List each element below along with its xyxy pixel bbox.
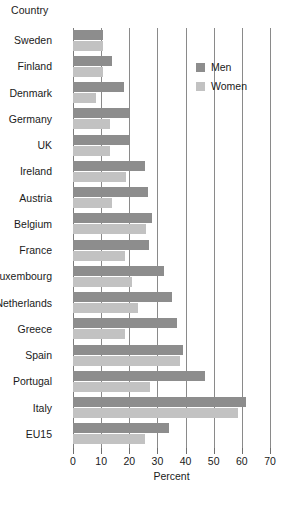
category-label: Netherlands <box>0 297 52 309</box>
bar-men <box>73 371 205 381</box>
bar-women <box>73 67 103 77</box>
x-tick-label: 40 <box>171 455 201 467</box>
bar-chart: Country SwedenFinlandDenmarkGermanyUKIre… <box>0 0 286 511</box>
category-label: Finland <box>0 60 52 72</box>
category-label: Ireland <box>0 165 52 177</box>
legend-label: Women <box>211 80 247 92</box>
bar-men <box>73 108 129 118</box>
bar-men <box>73 135 129 145</box>
x-tick-mark <box>101 448 102 454</box>
bar-men <box>73 423 169 433</box>
legend: MenWomen <box>196 59 268 97</box>
category-label: Italy <box>0 402 52 414</box>
y-axis-title: Country <box>11 4 48 16</box>
bar-women <box>73 41 103 51</box>
bar-women <box>73 198 112 208</box>
x-tick-label: 20 <box>114 455 144 467</box>
bar-row: UK <box>73 133 270 159</box>
category-label: Greece <box>0 323 52 335</box>
bar-women <box>73 93 96 103</box>
legend-entry: Men <box>196 59 268 75</box>
bar-row: Sweden <box>73 28 270 54</box>
bar-row: Portugal <box>73 369 270 395</box>
legend-swatch-icon <box>196 82 205 91</box>
legend-entry: Women <box>196 78 268 94</box>
x-axis: 010203040506070 <box>73 448 270 488</box>
category-label: Denmark <box>0 87 52 99</box>
legend-label: Men <box>211 61 231 73</box>
bar-women <box>73 434 145 444</box>
x-tick-mark <box>73 448 74 454</box>
x-tick-mark <box>186 448 187 454</box>
bar-women <box>73 408 238 418</box>
category-label: Luxembourg <box>0 270 52 282</box>
x-tick-label: 30 <box>142 455 172 467</box>
bar-row: EU15 <box>73 422 270 448</box>
x-tick-label: 70 <box>255 455 285 467</box>
x-tick-label: 0 <box>58 455 88 467</box>
bar-men <box>73 266 164 276</box>
category-label: France <box>0 244 52 256</box>
bar-row: Ireland <box>73 159 270 185</box>
bar-row: Greece <box>73 317 270 343</box>
x-tick-label: 50 <box>199 455 229 467</box>
x-tick-mark <box>129 448 130 454</box>
x-tick-label: 10 <box>86 455 116 467</box>
bar-men <box>73 213 152 223</box>
bar-men <box>73 161 145 171</box>
bar-men <box>73 240 149 250</box>
bar-men <box>73 292 172 302</box>
x-tick-mark <box>214 448 215 454</box>
bar-women <box>73 356 180 366</box>
category-label: UK <box>0 139 52 151</box>
gridline-70 <box>270 28 271 448</box>
bar-men <box>73 187 148 197</box>
bar-row: Germany <box>73 107 270 133</box>
bar-women <box>73 172 126 182</box>
bar-men <box>73 397 246 407</box>
bar-men <box>73 82 124 92</box>
category-label: EU15 <box>0 428 52 440</box>
bar-row: France <box>73 238 270 264</box>
bar-women <box>73 146 110 156</box>
bar-row: Italy <box>73 396 270 422</box>
bar-women <box>73 329 125 339</box>
category-label: Belgium <box>0 218 52 230</box>
category-label: Spain <box>0 349 52 361</box>
bar-men <box>73 345 183 355</box>
bar-women <box>73 277 132 287</box>
x-tick-mark <box>270 448 271 454</box>
bar-men <box>73 30 103 40</box>
category-label: Sweden <box>0 34 52 46</box>
bar-women <box>73 224 146 234</box>
legend-swatch-icon <box>196 63 205 72</box>
bar-row: Spain <box>73 343 270 369</box>
bar-men <box>73 318 177 328</box>
category-label: Germany <box>0 113 52 125</box>
x-axis-title: Percent <box>73 470 270 482</box>
bar-women <box>73 382 150 392</box>
x-tick-label: 60 <box>227 455 257 467</box>
x-tick-mark <box>157 448 158 454</box>
x-tick-mark <box>242 448 243 454</box>
category-label: Portugal <box>0 375 52 387</box>
bar-row: Netherlands <box>73 291 270 317</box>
bar-women <box>73 303 138 313</box>
bar-row: Austria <box>73 186 270 212</box>
bar-row: Luxembourg <box>73 264 270 290</box>
bar-women <box>73 119 110 129</box>
bar-women <box>73 251 125 261</box>
bar-men <box>73 56 112 66</box>
category-label: Austria <box>0 192 52 204</box>
bar-row: Belgium <box>73 212 270 238</box>
